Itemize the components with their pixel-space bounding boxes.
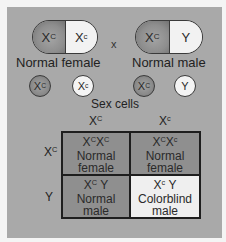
punnett-square: XCXC Normal female XCXc Normal female XC…	[61, 131, 201, 219]
phenotype-line2: female	[147, 162, 183, 174]
punnett-column-header-x-colorblind: Xc	[159, 114, 171, 128]
gamete-male-y: Y	[174, 75, 196, 97]
phenotype-line2: male	[83, 205, 109, 217]
female-chromosome-pair: XC Xc	[32, 20, 98, 54]
punnett-cell-xcxc-carrier: XCXc Normal female	[131, 133, 199, 176]
gamete-male-x-normal: XC	[133, 75, 155, 97]
female-parent-label: Normal female	[16, 55, 101, 70]
phenotype-line2: male	[152, 205, 178, 217]
punnett-row-header-y: Y	[45, 190, 53, 204]
punnett-column-header-x-normal: XC	[89, 114, 102, 128]
genotype: XC Y	[84, 179, 109, 191]
phenotype-line2: female	[78, 162, 114, 174]
male-chromosome-y: Y	[170, 21, 203, 53]
female-chromosome-x-colorblind: Xc	[66, 21, 98, 53]
male-chromosome-x-normal: XC	[136, 21, 170, 53]
punnett-cell-xcy-colorblind: Xc Y Colorblind male	[131, 176, 199, 217]
punnett-cell-xcy-normal: XC Y Normal male	[63, 176, 131, 217]
punnett-cell-xcxc: XCXC Normal female	[63, 133, 131, 176]
male-parent-label: Normal male	[132, 55, 206, 70]
gamete-female-x-normal: XC	[29, 75, 51, 97]
gamete-female-x-colorblind: Xc	[72, 75, 94, 97]
cross-symbol: x	[111, 38, 117, 50]
male-chromosome-pair: XC Y	[135, 20, 203, 54]
genotype: XCXC	[83, 136, 110, 148]
female-chromosome-x-normal: XC	[33, 21, 66, 53]
genotype: XCXc	[152, 136, 177, 148]
sex-cells-label: Sex cells	[91, 97, 139, 111]
punnett-row-header-x-normal: XC	[44, 145, 57, 159]
genotype: Xc Y	[154, 179, 177, 191]
